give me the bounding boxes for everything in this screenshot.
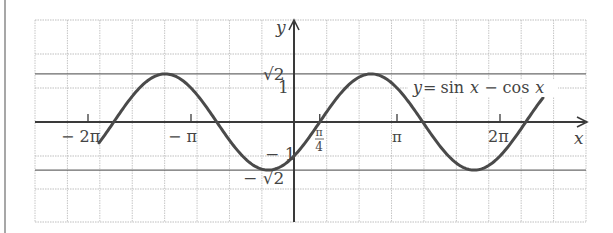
x-axis-label: x <box>574 128 584 148</box>
y-tick-label-1: 1 <box>278 77 289 97</box>
sine-minus-cosine-graph: y x − 2π − π π 4 π 2π √2 1 − 1 − √2 y=si… <box>0 0 613 233</box>
x-tick-label-neg-2pi: − 2π <box>61 127 100 146</box>
y-axis-label: y <box>275 17 286 37</box>
y-tick-label-neg-sqrt2: − √2 <box>243 168 284 188</box>
x-tick-label-neg-pi: − π <box>168 127 197 146</box>
x-tick-label-2pi: 2π <box>488 127 509 146</box>
x-tick-label-pi-over-4: π 4 <box>315 126 324 154</box>
y-tick-label-neg-1: − 1 <box>265 144 295 164</box>
x-tick-label-pi: π <box>392 128 402 146</box>
svg-text:4: 4 <box>315 140 323 154</box>
function-label: y=sinx−cosx <box>412 78 544 97</box>
svg-text:π: π <box>315 126 322 139</box>
